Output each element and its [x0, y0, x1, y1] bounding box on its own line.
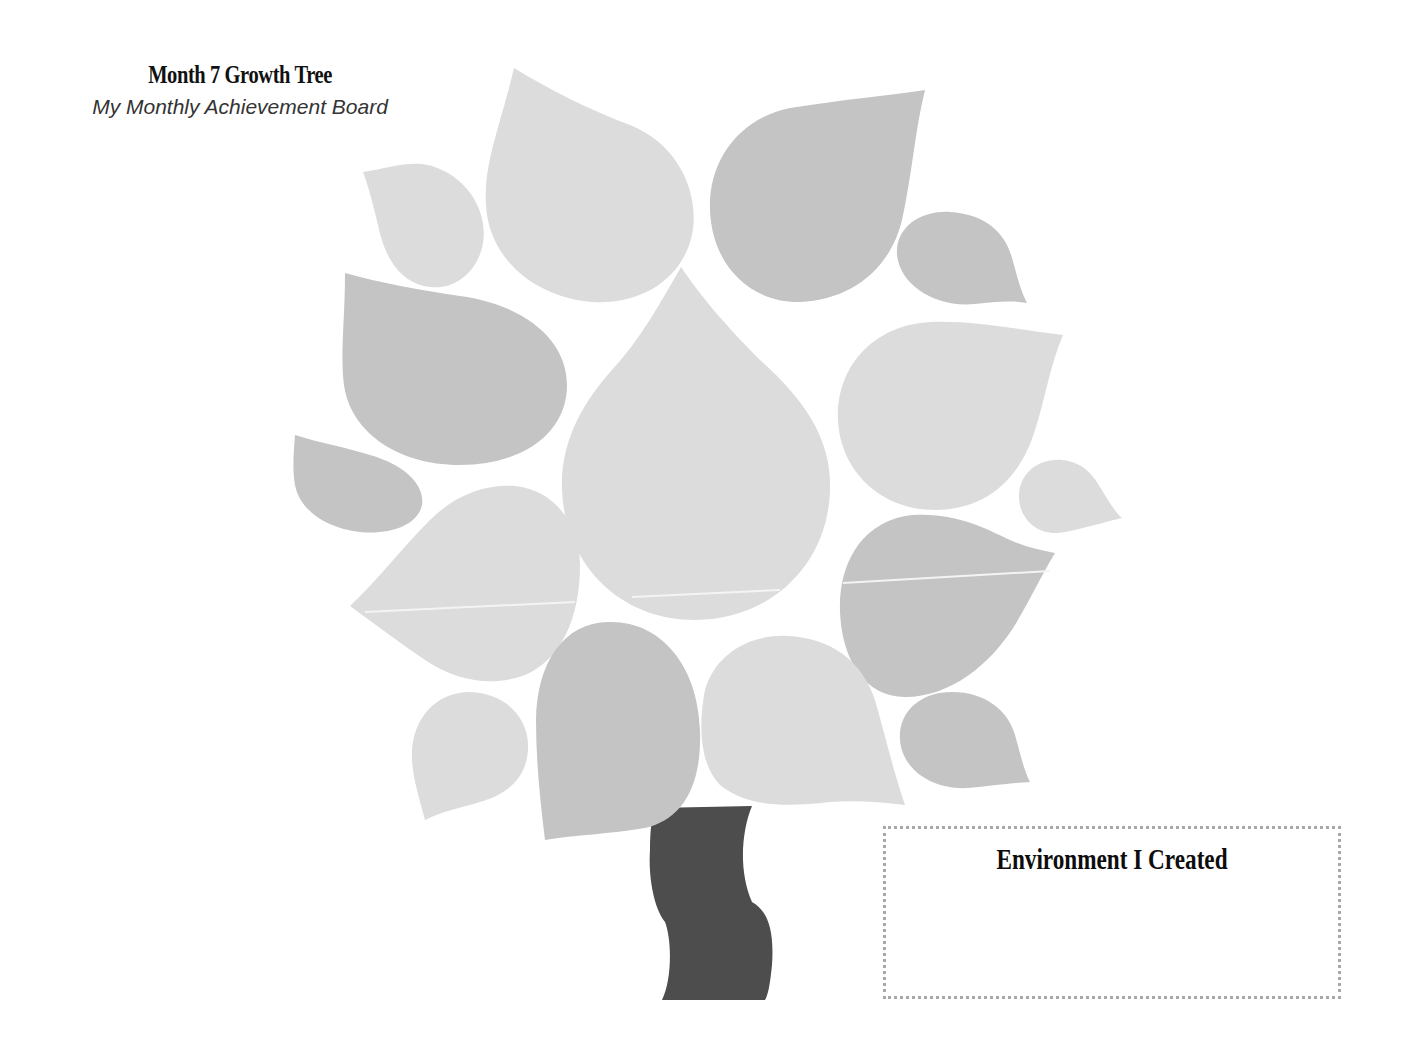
leaf-2[interactable]: [486, 68, 694, 302]
leaf-5[interactable]: [342, 273, 567, 465]
leaf-12[interactable]: [412, 692, 528, 820]
leaf-4[interactable]: [897, 212, 1027, 305]
environment-box: Environment I Created: [883, 826, 1341, 999]
leaf-15[interactable]: [900, 692, 1030, 788]
leaf-13[interactable]: [536, 622, 700, 840]
environment-box-title: Environment I Created: [931, 843, 1293, 876]
leaf-9[interactable]: [1019, 460, 1122, 533]
tree-trunk: [650, 806, 773, 1000]
leaf-6[interactable]: [562, 267, 830, 620]
leaf-1[interactable]: [363, 164, 484, 288]
leaf-3[interactable]: [710, 90, 925, 302]
environment-box-content[interactable]: [898, 889, 1326, 986]
leaf-11[interactable]: [840, 515, 1055, 697]
